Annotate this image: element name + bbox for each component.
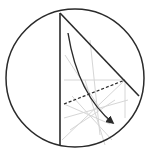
crease-lines (62, 40, 128, 145)
fold-diagram (0, 0, 149, 156)
